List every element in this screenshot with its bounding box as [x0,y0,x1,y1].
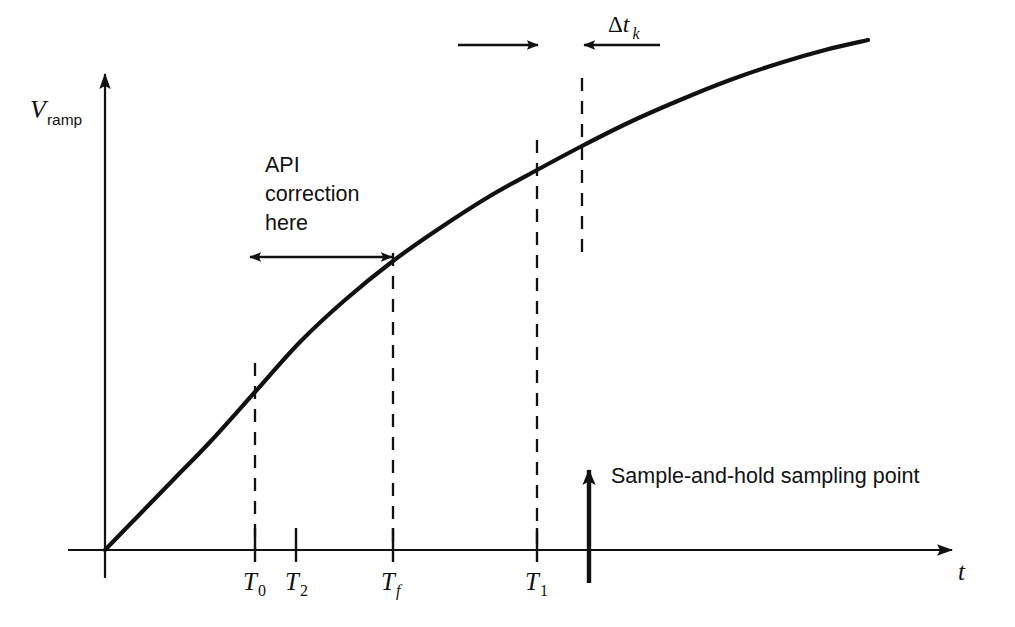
tick-label-t0-subscript: 0 [258,582,266,599]
tick-label-t2-symbol: T [285,568,301,595]
tick-label-t2-subscript: 2 [300,582,308,599]
delta-symbol: Δ [608,12,623,37]
delta-subscript: k [632,25,640,42]
diagram-canvas: Vramp t Δtk API correction here Sample-a… [0,0,1015,627]
api-note-line-3: here [265,211,308,235]
ramp-timing-diagram: Vramp t Δtk API correction here Sample-a… [0,0,1015,627]
tick-label-t0: T0 [243,568,266,599]
x-axis-label: t [958,558,966,585]
tick-label-tf-symbol: T [381,568,397,595]
delta-tk-label: Δtk [608,11,640,42]
tick-label-tf: Tf [381,568,403,600]
tick-label-t1-symbol: T [525,568,541,595]
tick-label-tf-subscript: f [396,582,403,600]
tick-label-t1-subscript: 1 [540,582,548,599]
y-axis-label: Vramp [30,95,82,128]
tick-label-t1: T1 [525,568,548,599]
api-note-line-1: API [265,153,300,177]
delta-variable: t [623,11,631,37]
tick-label-t0-symbol: T [243,568,259,595]
y-axis-label-subscript: ramp [47,111,82,128]
tick-label-t2: T2 [285,568,308,599]
sample-and-hold-note: Sample-and-hold sampling point [611,464,919,488]
api-note-line-2: correction [265,182,359,206]
